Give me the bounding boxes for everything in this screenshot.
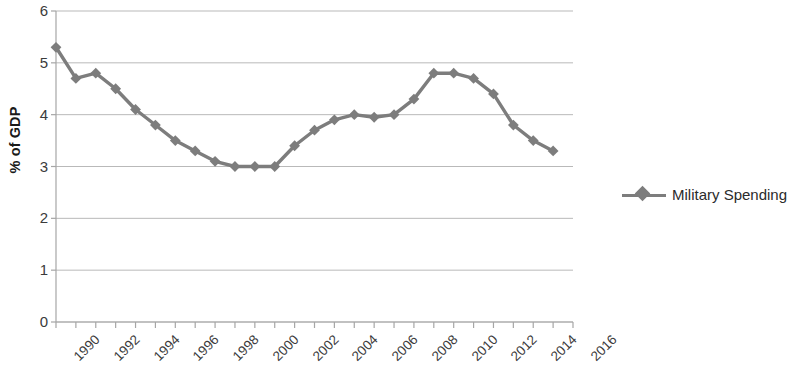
chart-legend: Military Spending	[622, 186, 787, 203]
legend-marker-icon	[622, 188, 666, 202]
y-axis-title: % of GDP	[7, 95, 23, 185]
gridlines	[56, 11, 573, 322]
data-point-marker	[448, 68, 459, 79]
y-axis-tick-label: 1	[22, 262, 48, 277]
series-1	[51, 42, 559, 172]
y-axis-tick-label: 2	[22, 210, 48, 225]
series-line	[56, 47, 553, 166]
data-point-marker	[369, 112, 380, 123]
legend-item-label: Military Spending	[672, 186, 787, 203]
y-axis-tick-label: 5	[22, 55, 48, 70]
y-axis-ticks	[51, 11, 56, 322]
data-point-marker	[249, 161, 260, 172]
y-axis-tick-label: 4	[22, 107, 48, 122]
y-axis-tick-label: 0	[22, 314, 48, 329]
chart-container: % of GDP 6543210 19901992199419961998200…	[0, 0, 806, 381]
x-axis-ticks	[56, 322, 573, 328]
y-axis-tick-label: 6	[22, 3, 48, 18]
y-axis-tick-label: 3	[22, 159, 48, 174]
data-point-marker	[230, 161, 241, 172]
data-point-marker	[349, 109, 360, 120]
